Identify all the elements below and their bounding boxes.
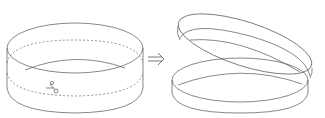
scissors-icon xyxy=(46,81,58,93)
upper-ring xyxy=(172,1,319,86)
arrow-right-icon xyxy=(148,53,164,65)
lower-ring xyxy=(172,58,308,113)
band-cutting-diagram xyxy=(0,0,325,118)
cylinder-band xyxy=(7,23,143,113)
